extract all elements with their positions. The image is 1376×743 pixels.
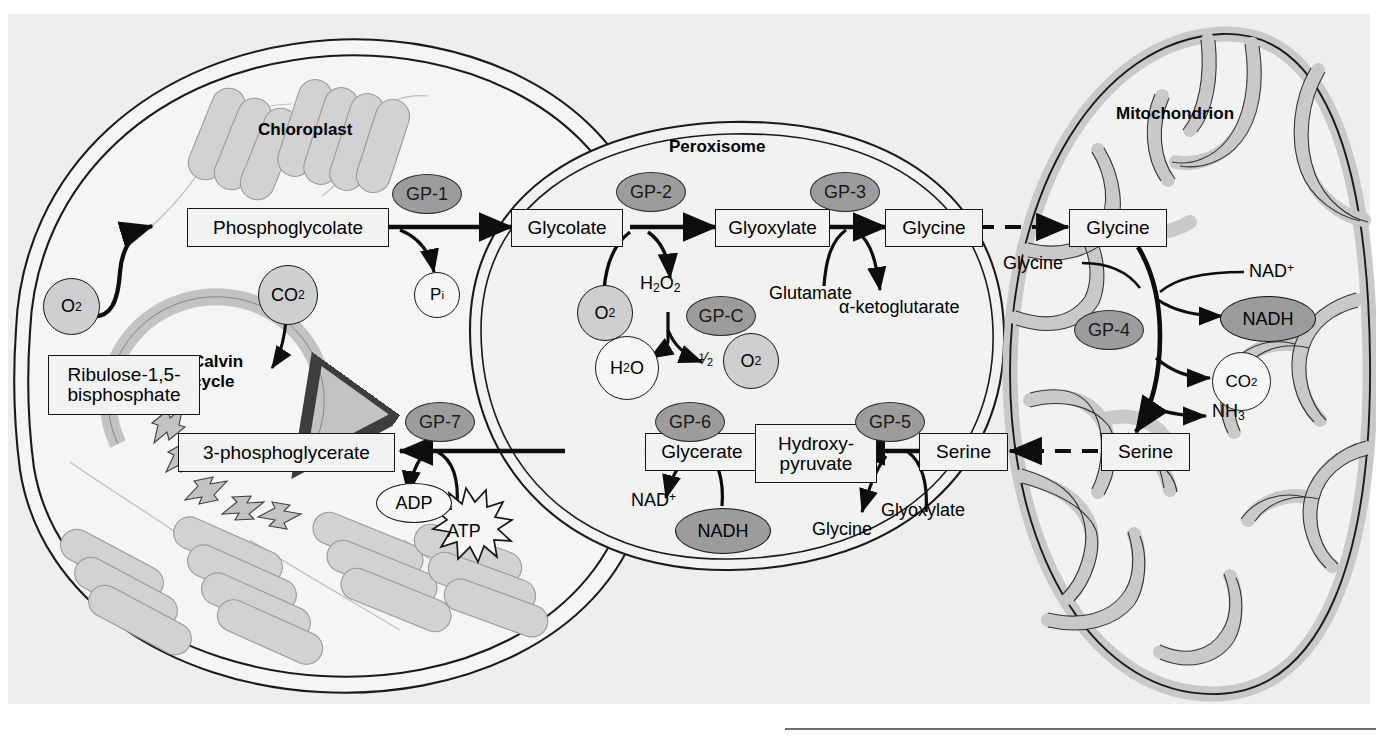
box-serine-peroxisome[interactable]: Serine <box>919 433 1008 471</box>
molecule-nh3: NH3 <box>1212 401 1245 423</box>
box-phosphoglycolate[interactable]: Phosphoglycolate <box>187 208 389 247</box>
box-hydroxypyruvate[interactable]: Hydroxy- pyruvate <box>755 424 877 483</box>
molecule-glycine-lower: Glycine <box>812 519 872 540</box>
molecule-glycine-mito-side: Glycine <box>1003 253 1063 274</box>
enzyme-gp-3[interactable]: GP-3 <box>810 172 880 212</box>
mitochondrion-membrane <box>1010 34 1370 694</box>
enzyme-gp-6[interactable]: GP-6 <box>655 402 725 442</box>
molecule-atp: ATP <box>447 521 481 542</box>
enzyme-gp-1[interactable]: GP-1 <box>392 174 462 214</box>
molecule-o2-chloroplast[interactable]: O2 <box>43 278 100 335</box>
enzyme-gp-5[interactable]: GP-5 <box>855 402 925 442</box>
molecule-h2o[interactable]: H2O <box>595 336 659 400</box>
enzyme-gp-7[interactable]: GP-7 <box>405 402 475 442</box>
box-ribulose-bisphosphate[interactable]: Ribulose-1,5- bisphosphate <box>48 355 200 415</box>
mitochondrion-label: Mitochondrion <box>1116 104 1234 124</box>
molecule-glyoxylate-lower: Glyoxylate <box>881 500 965 521</box>
peroxisome-label: Peroxisome <box>669 137 765 157</box>
box-glycine-mitochondrion[interactable]: Glycine <box>1069 209 1167 247</box>
molecule-co2-chloroplast[interactable]: CO2 <box>258 265 318 325</box>
molecule-nadh-mito[interactable]: NADH <box>1220 296 1316 342</box>
bottom-divider-rule <box>785 728 1376 730</box>
molecule-nad-plus-mito: NAD+ <box>1249 261 1294 282</box>
hydroxypyruvate-line1: Hydroxy- <box>778 434 854 454</box>
molecule-o2-peroxisome[interactable]: O2 <box>577 285 633 341</box>
molecule-nadh-peroxisome[interactable]: NADH <box>675 508 771 554</box>
molecule-nad-plus-peroxisome: NAD+ <box>631 490 676 511</box>
box-serine-mitochondrion[interactable]: Serine <box>1101 433 1190 471</box>
molecule-adp[interactable]: ADP <box>376 483 452 523</box>
enzyme-gp-4[interactable]: GP-4 <box>1074 310 1144 350</box>
figure-canvas: Chloroplast Peroxisome Mitochondrion Cal… <box>0 0 1376 743</box>
hydroxypyruvate-line2: pyruvate <box>780 454 853 474</box>
ribulose-line2: bisphosphate <box>67 385 180 405</box>
box-glycolate[interactable]: Glycolate <box>511 209 623 247</box>
molecule-h2o2: H2O2 <box>640 273 681 295</box>
enzyme-gp-2[interactable]: GP-2 <box>616 172 686 212</box>
molecule-half-o2-prefix: ¹⁄2 <box>699 350 713 368</box>
box-3-phosphoglycerate[interactable]: 3-phosphoglycerate <box>178 433 395 472</box>
molecule-alpha-ketoglutarate: α-ketoglutarate <box>839 297 959 318</box>
molecule-pi[interactable]: Pi <box>414 272 460 318</box>
box-glycine-peroxisome[interactable]: Glycine <box>885 209 983 247</box>
ribulose-line1: Ribulose-1,5- <box>68 365 181 385</box>
enzyme-gp-c[interactable]: GP-C <box>686 296 756 336</box>
box-glyoxylate[interactable]: Glyoxylate <box>715 209 830 247</box>
chloroplast-label: Chloroplast <box>258 120 352 140</box>
molecule-half-o2[interactable]: O2 <box>723 333 779 389</box>
